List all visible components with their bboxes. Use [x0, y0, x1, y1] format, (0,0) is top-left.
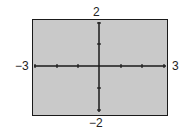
- x-max-label: 3: [172, 60, 179, 72]
- x-min-label: −3: [15, 60, 29, 72]
- y-max-label: 2: [93, 6, 100, 18]
- y-min-label: −2: [89, 117, 103, 129]
